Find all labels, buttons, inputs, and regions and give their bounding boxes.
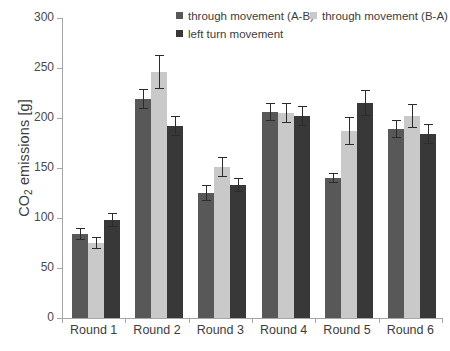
co2-emissions-bar-chart: through movement (A-B) left turn movemen… xyxy=(0,0,450,351)
error-bar xyxy=(159,55,160,89)
error-bar-cap xyxy=(298,106,307,107)
error-bar-cap xyxy=(392,137,401,138)
y-tick xyxy=(57,68,62,69)
bar xyxy=(104,220,120,318)
bar xyxy=(262,112,278,318)
error-bar xyxy=(80,228,81,240)
y-axis-title: CO2 emissions [g] xyxy=(16,58,32,258)
error-bar xyxy=(112,213,113,227)
error-bar-cap xyxy=(171,135,180,136)
error-bar-cap xyxy=(408,127,417,128)
error-bar-cap xyxy=(424,124,433,125)
error-bar-cap xyxy=(361,115,370,116)
error-bar-cap xyxy=(234,178,243,179)
bar-group xyxy=(135,18,183,318)
error-bar-cap xyxy=(361,90,370,91)
bar xyxy=(420,134,436,318)
bar-group xyxy=(388,18,436,318)
y-tick-label: 0 xyxy=(8,310,54,324)
bar xyxy=(198,193,214,318)
error-bar-cap xyxy=(155,88,164,89)
error-bar xyxy=(365,90,366,116)
bar xyxy=(341,131,357,318)
error-bar xyxy=(143,89,144,109)
error-bar xyxy=(206,185,207,201)
bar xyxy=(151,72,167,318)
y-tick-label: 250 xyxy=(8,60,54,74)
error-bar xyxy=(412,104,413,128)
error-bar xyxy=(286,103,287,123)
error-bar-cap xyxy=(108,213,117,214)
bar-group xyxy=(72,18,120,318)
error-bar-cap xyxy=(76,239,85,240)
y-tick xyxy=(57,218,62,219)
bar xyxy=(325,178,341,318)
y-tick-label: 200 xyxy=(8,110,54,124)
error-bar-cap xyxy=(329,182,338,183)
error-bar-cap xyxy=(92,237,101,238)
error-bar-cap xyxy=(202,200,211,201)
bar-group xyxy=(325,18,373,318)
bar xyxy=(294,116,310,318)
bar-group xyxy=(262,18,310,318)
y-tick-label: 150 xyxy=(8,160,54,174)
error-bar xyxy=(333,173,334,183)
error-bar xyxy=(349,117,350,145)
error-bar-cap xyxy=(108,226,117,227)
error-bar-cap xyxy=(218,157,227,158)
error-bar-cap xyxy=(329,173,338,174)
error-bar xyxy=(270,103,271,121)
error-bar-cap xyxy=(234,191,243,192)
error-bar-cap xyxy=(282,103,291,104)
error-bar xyxy=(396,120,397,138)
bar xyxy=(357,103,373,318)
error-bar-cap xyxy=(408,104,417,105)
y-tick-label: 100 xyxy=(8,210,54,224)
error-bar-cap xyxy=(266,103,275,104)
error-bar-cap xyxy=(155,55,164,56)
bar xyxy=(214,167,230,318)
error-bar xyxy=(428,124,429,144)
error-bar xyxy=(302,106,303,126)
error-bar-cap xyxy=(392,120,401,121)
y-tick xyxy=(57,118,62,119)
y-tick xyxy=(57,168,62,169)
error-bar xyxy=(96,237,97,249)
error-bar-cap xyxy=(424,143,433,144)
bar xyxy=(230,185,246,318)
y-tick xyxy=(57,268,62,269)
error-bar-cap xyxy=(139,89,148,90)
y-tick xyxy=(57,18,62,19)
error-bar-cap xyxy=(345,144,354,145)
error-bar-cap xyxy=(345,117,354,118)
error-bar xyxy=(175,116,176,136)
bar xyxy=(167,126,183,318)
bar xyxy=(388,129,404,318)
error-bar-cap xyxy=(76,228,85,229)
y-tick-label: 300 xyxy=(8,10,54,24)
y-tick-label: 50 xyxy=(8,260,54,274)
error-bar-cap xyxy=(218,176,227,177)
bar xyxy=(88,243,104,318)
error-bar-cap xyxy=(266,120,275,121)
y-axis-title-subscript: 2 xyxy=(23,189,34,195)
error-bar xyxy=(238,178,239,192)
error-bar-cap xyxy=(171,116,180,117)
error-bar-cap xyxy=(139,108,148,109)
error-bar-cap xyxy=(202,185,211,186)
error-bar-cap xyxy=(298,125,307,126)
bar xyxy=(135,99,151,318)
error-bar xyxy=(222,157,223,177)
plot-area: 050100150200250300 Round 1Round 2Round 3… xyxy=(62,18,442,318)
error-bar-cap xyxy=(92,248,101,249)
x-tick-label: Round 6 xyxy=(368,323,450,337)
y-axis-line xyxy=(62,18,63,318)
bar xyxy=(278,113,294,318)
bar xyxy=(72,234,88,318)
bar-group xyxy=(198,18,246,318)
error-bar-cap xyxy=(282,122,291,123)
bar xyxy=(404,116,420,318)
